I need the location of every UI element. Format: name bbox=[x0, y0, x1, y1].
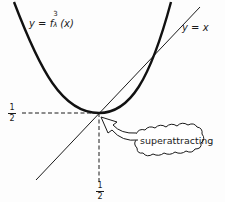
curve-label-text: y = f bbox=[29, 18, 53, 29]
x-axis-half-label: 1 2 bbox=[96, 182, 104, 201]
callout-arrow bbox=[101, 117, 138, 140]
diagonal-label: y = x bbox=[182, 22, 209, 33]
curve-label-argument: (x) bbox=[60, 18, 74, 29]
y-half-numerator: 1 bbox=[9, 103, 14, 112]
curve-label-superscript: 3 bbox=[53, 10, 57, 18]
curve-label: y = f3λ(x) bbox=[29, 18, 74, 29]
y-axis-half-label: 1 2 bbox=[8, 104, 16, 123]
superattracting-annotation: superattracting bbox=[140, 135, 213, 146]
y-half-denominator: 2 bbox=[9, 114, 14, 123]
superattracting-fixed-point-diagram: y = f3λ(x) y = x 1 2 1 2 superattracting bbox=[0, 0, 225, 202]
curve-label-subscript: λ bbox=[53, 21, 57, 29]
x-half-numerator: 1 bbox=[97, 181, 102, 190]
x-half-denominator: 2 bbox=[97, 192, 102, 201]
